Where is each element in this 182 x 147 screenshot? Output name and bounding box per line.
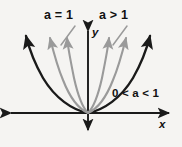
y-axis-label: y: [92, 27, 99, 39]
parabola-family-figure: a = 1 a > 1 0 < a < 1 y x: [0, 0, 182, 147]
label-a-greater-than-1: a > 1: [99, 9, 128, 22]
label-a-equals-1: a = 1: [44, 9, 73, 22]
x-axis-label: x: [159, 119, 166, 131]
curve-0-lt-a-lt-1-right-branch: [88, 36, 150, 113]
figure-canvas: [0, 0, 182, 147]
label-a-between-0-and-1: 0 < a < 1: [112, 88, 159, 100]
curve-0-lt-a-lt-1-left-branch: [26, 36, 88, 113]
curve-a-gt-1-right-branch: [88, 38, 109, 113]
curve-a-gt-1-left-branch: [67, 38, 88, 113]
axes-group: [11, 31, 169, 130]
